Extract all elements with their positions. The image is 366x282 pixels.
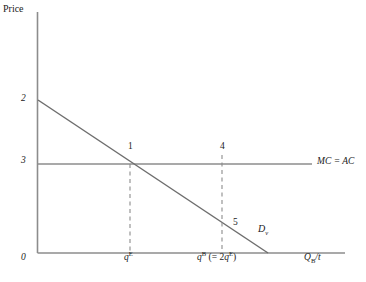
y-tick-label-3: 3	[21, 156, 26, 166]
point-label-1: 1	[128, 142, 133, 152]
point-label-5: 5	[233, 218, 238, 228]
mc-ac-label: MC = AC	[317, 157, 354, 167]
x-axis-title-rate: /t	[315, 252, 320, 262]
x-tick-qb-paren-open: (= 2	[206, 252, 224, 262]
demand-curve-label: Dv	[258, 224, 268, 234]
diagram-canvas	[0, 0, 366, 282]
y-axis-title: Price	[3, 4, 24, 14]
x-tick-qe-superscript: E	[129, 250, 133, 257]
economics-diagram: Price 2 3 0 1 4 5 Dv MC = AC qE qB (= 2q…	[0, 0, 366, 282]
point-label-4: 4	[220, 142, 225, 152]
demand-curve	[38, 100, 268, 253]
x-axis-title: QB/t	[304, 253, 321, 263]
x-tick-label-qe: qE	[124, 253, 133, 263]
demand-curve-label-subscript: v	[265, 229, 268, 236]
origin-label: 0	[21, 253, 26, 263]
x-axis-title-base: Q	[304, 252, 311, 262]
x-tick-qb-paren-close: )	[233, 252, 236, 262]
x-tick-label-qb: qB (= 2qE)	[197, 253, 236, 263]
y-tick-label-2: 2	[21, 94, 26, 104]
